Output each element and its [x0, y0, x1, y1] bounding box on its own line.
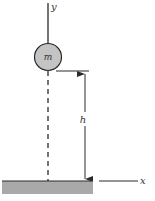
- y-axis-label: y: [50, 1, 57, 12]
- mass-label: m: [44, 52, 53, 62]
- ground: [2, 181, 93, 194]
- x-axis-label: x: [140, 175, 146, 186]
- falling-mass-diagram: y m h x: [0, 0, 155, 201]
- height-label: h: [80, 114, 86, 125]
